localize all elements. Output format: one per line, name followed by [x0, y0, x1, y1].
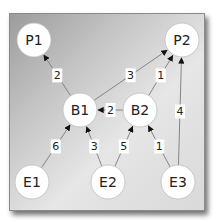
node-label: P1 [25, 32, 42, 48]
node-label: B2 [131, 102, 150, 118]
node-b2: B2 [123, 93, 157, 127]
node-p1: P1 [17, 23, 51, 57]
edge-weight-label: 1 [156, 68, 166, 82]
svg-text:2: 2 [54, 69, 61, 82]
svg-text:3: 3 [91, 140, 98, 153]
edge-weight-label: 6 [51, 139, 61, 153]
edge-weight-label: 4 [175, 104, 185, 118]
node-e1: E1 [15, 165, 49, 199]
edge-weight-label: 2 [52, 68, 62, 82]
node-e2: E2 [91, 165, 125, 199]
node-b1: B1 [63, 93, 97, 127]
node-label: P2 [173, 32, 190, 48]
svg-text:3: 3 [127, 69, 134, 82]
edge-weight-label: 3 [126, 68, 136, 82]
edge-weight-label: 5 [119, 139, 129, 153]
svg-text:6: 6 [52, 140, 59, 153]
node-label: E2 [99, 174, 117, 190]
graph-canvas: 231426351 P1P2B1B2E1E2E3 [0, 0, 218, 222]
node-e3: E3 [161, 165, 195, 199]
node-label: E1 [23, 174, 41, 190]
svg-text:4: 4 [176, 105, 183, 118]
svg-text:1: 1 [157, 69, 164, 82]
edge-weight-label: 3 [89, 139, 99, 153]
edge-weight-label: 1 [154, 139, 164, 153]
svg-text:1: 1 [156, 140, 163, 153]
node-p2: P2 [165, 23, 199, 57]
edge-weight-label: 2 [106, 103, 116, 117]
svg-text:2: 2 [107, 104, 114, 117]
svg-text:5: 5 [120, 140, 127, 153]
node-label: B1 [71, 102, 90, 118]
node-label: E3 [169, 174, 187, 190]
